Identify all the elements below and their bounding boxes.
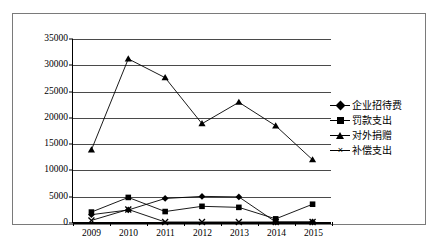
data-point-diamond: [199, 193, 206, 200]
x-tick-label: 2010: [119, 229, 138, 239]
series-diamond: [88, 193, 316, 225]
x-marker-icon: ×: [337, 147, 344, 154]
x-tick-label: 2012: [193, 229, 212, 239]
x-tick-label: 2014: [267, 229, 286, 239]
y-tick-label: 35000: [44, 34, 68, 44]
data-point-triangle: [235, 99, 242, 105]
chart-legend: 企业招待费罚款支出对外捐赠×补偿支出: [330, 98, 416, 158]
data-point-triangle: [88, 146, 95, 152]
x-tick-label: 2015: [304, 229, 323, 239]
series-triangle: [88, 55, 316, 162]
x-tick-label: 2009: [82, 229, 101, 239]
legend-label: 企业招待费: [352, 101, 402, 111]
data-point-diamond: [162, 195, 169, 202]
series-line: [91, 59, 312, 160]
series-line: [91, 196, 312, 222]
data-point-square: [125, 195, 131, 201]
y-tick-label: 15000: [44, 139, 68, 149]
data-point-triangle: [125, 55, 132, 61]
chart-figure: 05000100001500020000250003000035000 2009…: [0, 0, 440, 251]
x-tick-mark: [110, 222, 111, 226]
legend-marker-triangle-icon: [330, 130, 350, 141]
legend-item[interactable]: 对外捐赠: [330, 128, 416, 143]
data-point-triangle: [272, 122, 279, 128]
legend-marker-diamond-icon: [330, 100, 350, 111]
y-tick-label: 5000: [49, 192, 68, 202]
square-marker-icon: [337, 117, 344, 124]
data-point-square: [236, 205, 242, 211]
triangle-marker-icon: [336, 132, 344, 139]
plot-area: 05000100001500020000250003000035000 2009…: [72, 39, 331, 223]
legend-label: 补偿支出: [352, 146, 392, 156]
x-tick-mark: [221, 222, 222, 226]
x-tick-label: 2011: [156, 229, 175, 239]
series-line: [91, 209, 312, 222]
legend-item[interactable]: 罚款支出: [330, 113, 416, 128]
x-tick-mark: [258, 222, 259, 226]
legend-item[interactable]: ×补偿支出: [330, 143, 416, 158]
data-point-square: [162, 209, 168, 215]
legend-marker-x-icon: ×: [330, 145, 350, 156]
x-tick-label: 2013: [230, 229, 249, 239]
legend-item[interactable]: 企业招待费: [330, 98, 416, 113]
gridline: [73, 223, 331, 224]
legend-label: 对外捐赠: [352, 131, 392, 141]
data-point-square: [89, 209, 95, 215]
data-point-triangle: [162, 74, 169, 80]
x-tick-mark: [295, 222, 296, 226]
data-point-square: [199, 204, 205, 210]
y-tick-label: 30000: [44, 61, 68, 71]
legend-marker-square-icon: [330, 115, 350, 126]
data-point-square: [310, 201, 316, 207]
y-tick-label: 25000: [44, 87, 68, 97]
y-tick-label: 10000: [44, 166, 68, 176]
x-tick-mark: [332, 222, 333, 226]
legend-label: 罚款支出: [352, 116, 392, 126]
y-tick-label: 20000: [44, 113, 68, 123]
x-tick-mark: [147, 222, 148, 226]
data-point-diamond: [235, 194, 242, 201]
x-tick-mark: [73, 222, 74, 226]
diamond-marker-icon: [336, 101, 346, 111]
x-tick-mark: [184, 222, 185, 226]
y-tick-label: 0: [63, 218, 68, 228]
data-series-layer: [73, 39, 331, 222]
